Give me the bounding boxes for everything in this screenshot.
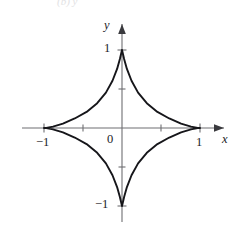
astroid-figure: (b) y y x 0 −1 1 1 −1 xyxy=(0,0,241,236)
y-axis-label: y xyxy=(104,19,110,32)
x-tick-label-neg-1: −1 xyxy=(36,136,49,149)
y-tick-label-neg-1: −1 xyxy=(95,198,108,211)
y-tick-label-pos-1: 1 xyxy=(104,42,110,55)
plot-canvas xyxy=(0,0,241,236)
y-axis-arrow-icon xyxy=(118,24,126,34)
x-axis-label: x xyxy=(222,133,228,146)
origin-label: 0 xyxy=(107,133,113,146)
x-axis-arrow-icon xyxy=(214,124,224,132)
x-tick-label-pos-1: 1 xyxy=(196,136,202,149)
